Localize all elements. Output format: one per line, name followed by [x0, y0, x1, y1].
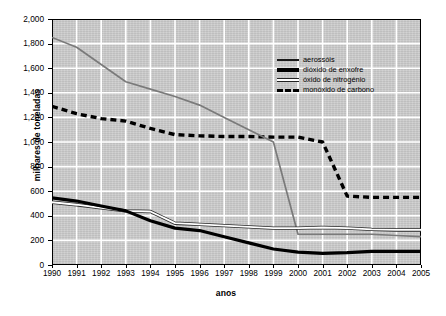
legend-label-dioxido-de-enxofre: dióxido de enxofre [303, 65, 363, 75]
x-tick-mark [347, 265, 348, 268]
legend-label-monoxido-de-carbono: monóxido de carbono [303, 85, 374, 95]
x-tick-mark [175, 265, 176, 268]
legend-label-oxido-de-nitrogenio: óxido de nitrogénio [303, 75, 365, 85]
legend-label-aerossois: aerossóis [303, 55, 335, 65]
legend-swatch-aerossois-icon [277, 55, 299, 65]
emissions-line-chart: milhares de toneladas anos 0200400600800… [0, 0, 446, 316]
x-tick-mark [298, 265, 299, 268]
x-tick-mark [150, 265, 151, 268]
x-tick-mark [52, 265, 53, 268]
x-tick-label: 2005 [406, 269, 436, 278]
y-tick-label: 200 [0, 235, 44, 245]
x-tick-mark [224, 265, 225, 268]
legend-item-dioxido-de-enxofre: dióxido de enxofre [277, 65, 393, 75]
legend-item-aerossois: aerossóis [277, 55, 393, 65]
y-tick-label: 2,000 [0, 14, 44, 24]
y-tick-label: 1,600 [0, 63, 44, 73]
y-tick-label: 0 [0, 260, 44, 270]
y-tick-label: 800 [0, 161, 44, 171]
y-tick-label: 400 [0, 210, 44, 220]
legend-swatch-dioxido-de-enxofre-icon [277, 65, 299, 75]
x-tick-mark [77, 265, 78, 268]
series-line [52, 106, 421, 197]
legend-swatch-monoxido-de-carbono-icon [277, 85, 299, 95]
x-tick-mark [323, 265, 324, 268]
y-tick-label: 1,000 [0, 137, 44, 147]
x-tick-mark [200, 265, 201, 268]
x-axis-title: anos [30, 288, 422, 298]
x-tick-mark [249, 265, 250, 268]
legend-swatch-oxido-de-nitrogenio-icon [277, 75, 299, 85]
x-tick-mark [396, 265, 397, 268]
x-tick-mark [421, 265, 422, 268]
legend: aerossóis dióxido de enxofre óxido de ni… [277, 53, 393, 97]
y-tick-label: 1,200 [0, 112, 44, 122]
x-tick-mark [273, 265, 274, 268]
legend-item-oxido-de-nitrogenio: óxido de nitrogénio [277, 75, 393, 85]
x-tick-mark [126, 265, 127, 268]
y-tick-label: 1,400 [0, 87, 44, 97]
legend-item-monoxido-de-carbono: monóxido de carbono [277, 85, 393, 95]
y-tick-label: 1,800 [0, 38, 44, 48]
x-tick-mark [372, 265, 373, 268]
x-tick-mark [101, 265, 102, 268]
y-tick-label: 600 [0, 186, 44, 196]
